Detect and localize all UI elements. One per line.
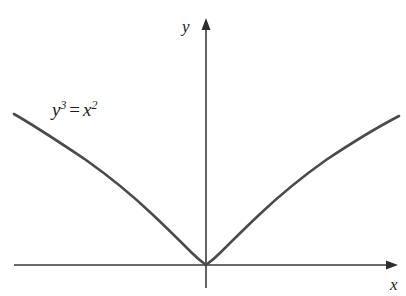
coordinate-plot: y x [0, 0, 406, 296]
y-axis-label: y [180, 17, 190, 36]
figure-canvas: y x y3=x2 [0, 0, 406, 296]
x-axis-label: x [389, 275, 398, 294]
equation-x-exponent: 2 [91, 99, 97, 112]
curve-equation-label: y3=x2 [52, 100, 97, 119]
curve-left-branch [14, 114, 206, 265]
x-axis-arrow-icon [386, 261, 398, 270]
curve-right-branch [206, 116, 399, 265]
equation-equals-sign: = [66, 99, 83, 120]
y-axis-arrow-icon [202, 18, 211, 30]
